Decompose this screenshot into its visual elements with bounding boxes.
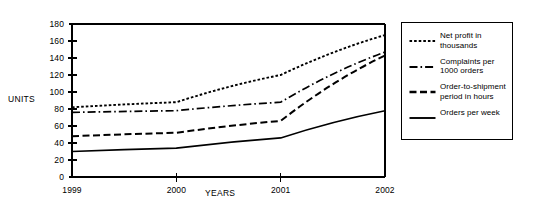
legend-line-swatch <box>409 58 436 68</box>
series-line <box>72 35 385 107</box>
legend-line-swatch <box>409 83 436 93</box>
legend-label: Complaints per1000 orders <box>440 57 495 76</box>
series-line <box>72 52 385 112</box>
legend-line-swatch <box>409 32 436 42</box>
y-tick-label: 40 <box>30 138 64 148</box>
series-line <box>72 55 385 136</box>
chart-legend: Net profit inthousandsComplaints per1000… <box>401 22 513 140</box>
y-tick-label: 100 <box>30 87 64 97</box>
x-axis-title: YEARS <box>205 188 235 198</box>
y-tick-label: 20 <box>30 155 64 165</box>
y-tick-label: 0 <box>30 172 64 182</box>
y-tick-label: 80 <box>30 104 64 114</box>
y-tick-label: 160 <box>30 36 64 46</box>
legend-item: Net profit inthousands <box>409 31 509 50</box>
legend-item: Complaints per1000 orders <box>409 57 509 76</box>
legend-label: Orders per week <box>440 108 500 118</box>
y-tick-label: 180 <box>30 19 64 29</box>
series-line <box>72 111 385 152</box>
legend-item: Orders per week <box>409 108 509 119</box>
y-axis-title: UNITS <box>8 94 35 104</box>
legend-item-list: Net profit inthousandsComplaints per1000… <box>409 31 509 125</box>
x-tick-label: 1999 <box>50 185 94 195</box>
x-tick-label: 2002 <box>363 185 407 195</box>
legend-line-swatch <box>409 109 436 119</box>
chart-figure: 180160140120100806040200 199920002001200… <box>0 0 533 210</box>
legend-item: Order-to-shipmentperiod in hours <box>409 82 509 101</box>
chart-frame <box>72 24 385 177</box>
data-series-layer <box>72 35 385 151</box>
x-tick-label: 2001 <box>259 185 303 195</box>
plot-area: 180160140120100806040200 199920002001200… <box>0 0 400 210</box>
y-tick-label: 60 <box>30 121 64 131</box>
y-tick-label: 120 <box>30 70 64 80</box>
legend-label: Net profit inthousands <box>440 31 482 50</box>
legend-label: Order-to-shipmentperiod in hours <box>440 82 506 101</box>
y-tick-label: 140 <box>30 53 64 63</box>
x-tick-label: 2000 <box>154 185 198 195</box>
